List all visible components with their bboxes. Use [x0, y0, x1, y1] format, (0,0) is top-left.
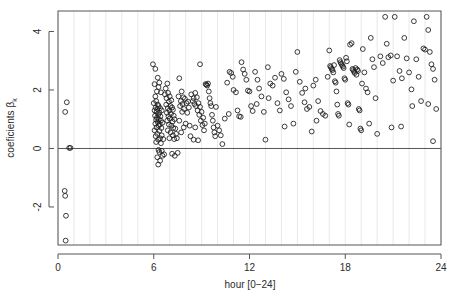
- data-point: [368, 36, 373, 41]
- x-axis-tick-label: 12: [244, 262, 256, 273]
- data-point: [300, 91, 305, 96]
- data-point: [259, 94, 264, 99]
- data-point: [370, 57, 375, 62]
- data-point: [266, 96, 271, 101]
- data-point: [282, 124, 287, 129]
- data-point: [289, 104, 294, 109]
- data-point: [202, 128, 207, 133]
- data-point: [64, 213, 69, 218]
- data-point: [384, 41, 389, 46]
- data-point: [286, 97, 291, 102]
- data-point: [336, 113, 341, 118]
- data-point: [347, 122, 352, 127]
- data-point: [431, 139, 436, 144]
- data-point: [411, 19, 416, 24]
- data-point: [174, 136, 179, 141]
- data-point: [265, 65, 270, 70]
- data-point: [159, 141, 164, 146]
- data-point: [242, 71, 247, 76]
- data-point: [177, 76, 182, 81]
- data-point: [151, 62, 156, 67]
- data-point: [380, 61, 385, 66]
- data-point: [434, 107, 439, 112]
- data-point: [427, 50, 432, 55]
- data-point: [297, 79, 302, 84]
- data-point: [179, 89, 184, 94]
- data-point: [191, 137, 196, 142]
- data-point: [372, 65, 377, 70]
- data-point: [64, 100, 69, 105]
- y-axis-title-subscript: k: [11, 98, 18, 102]
- data-point: [346, 102, 351, 107]
- data-point: [281, 76, 286, 81]
- data-point: [187, 123, 192, 128]
- data-point: [291, 121, 296, 126]
- data-point: [397, 69, 402, 74]
- scatter-plot-figure: 06121824 -2024 hour [0−24] coeficients β…: [0, 0, 457, 300]
- data-point: [273, 75, 278, 80]
- data-point: [63, 238, 68, 243]
- data-point: [63, 193, 68, 198]
- x-axis-tick-label: 6: [151, 262, 157, 273]
- data-point: [63, 110, 68, 115]
- data-point: [210, 112, 215, 117]
- data-point: [176, 94, 181, 99]
- data-point: [402, 36, 407, 41]
- data-point: [360, 81, 365, 86]
- data-point: [62, 188, 67, 193]
- y-axis-title-base: coeficients β: [5, 102, 16, 158]
- y-axis-title-text: coeficients βk: [5, 98, 18, 158]
- data-point: [157, 80, 162, 85]
- data-point: [419, 99, 424, 104]
- data-point: [414, 57, 419, 62]
- y-axis-tick-label: -2: [32, 202, 43, 211]
- data-point: [210, 118, 215, 123]
- data-point: [314, 118, 319, 123]
- data-point: [156, 162, 161, 167]
- x-axis-title: hour [0−24]: [225, 279, 276, 290]
- data-point: [165, 81, 170, 86]
- data-point: [207, 96, 212, 101]
- data-point: [186, 105, 191, 110]
- data-point: [194, 95, 199, 100]
- data-point: [404, 56, 409, 61]
- data-point: [383, 14, 388, 19]
- data-point: [400, 76, 405, 81]
- y-axis-title: coeficients βk: [5, 98, 18, 158]
- data-point: [313, 77, 318, 82]
- data-point: [399, 124, 404, 129]
- data-point: [431, 67, 436, 72]
- data-point: [255, 77, 260, 82]
- data-point: [222, 116, 227, 121]
- x-axis-tick-label: 0: [55, 262, 61, 273]
- data-point: [316, 99, 321, 104]
- y-axis: -2024: [32, 28, 54, 211]
- data-point: [410, 104, 415, 109]
- data-point: [416, 74, 421, 79]
- data-point: [284, 90, 289, 95]
- data-point: [367, 121, 372, 126]
- data-point: [177, 118, 182, 123]
- data-point: [175, 150, 180, 155]
- data-point: [302, 100, 307, 105]
- data-point: [395, 54, 400, 59]
- x-axis: 06121824: [55, 254, 447, 273]
- data-point: [426, 28, 431, 33]
- data-point: [253, 69, 258, 74]
- data-point: [196, 138, 201, 143]
- data-point: [303, 86, 308, 91]
- data-point: [250, 109, 255, 114]
- data-point: [335, 102, 340, 107]
- x-axis-tick-label: 24: [435, 262, 447, 273]
- data-point: [334, 89, 339, 94]
- data-point: [155, 75, 160, 80]
- data-point: [239, 60, 244, 65]
- data-point: [226, 112, 231, 117]
- data-point: [409, 87, 414, 92]
- y-axis-tick-label: 2: [32, 87, 43, 93]
- data-point: [378, 54, 383, 59]
- gridlines-group: [58, 11, 441, 245]
- data-point: [209, 104, 214, 109]
- data-point: [429, 62, 434, 67]
- data-point: [218, 133, 223, 138]
